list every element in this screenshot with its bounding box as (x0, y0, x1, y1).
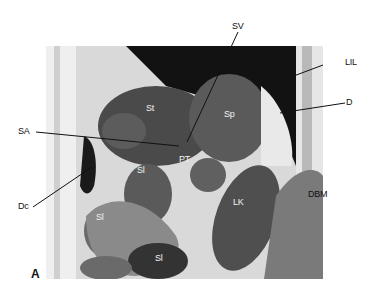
label-dbm: DBM (308, 190, 327, 199)
leader-line-sv (187, 32, 238, 142)
panel-letter: A (31, 267, 40, 281)
label-sl-left: Sl (96, 213, 104, 222)
label-sl-upper: Sl (137, 166, 145, 175)
label-st: St (146, 104, 154, 113)
label-d: D (346, 98, 352, 107)
label-sl-bottom: Sl (155, 254, 163, 263)
label-sp: Sp (224, 110, 235, 119)
label-sa: SA (18, 127, 30, 136)
label-sv: SV (232, 22, 244, 31)
label-dc: Dc (18, 202, 29, 211)
leader-line-dc (33, 167, 92, 207)
label-lil: LIL (345, 58, 357, 67)
label-lk: LK (233, 198, 244, 207)
leader-line-sa (36, 132, 179, 146)
leader-lines (0, 0, 378, 299)
mri-figure: SV LIL D SA Dc DBM St Sp PT Sl Sl Sl LK … (0, 0, 378, 299)
leader-line-d (280, 103, 345, 113)
leader-line-lil (283, 65, 323, 80)
label-pt: PT (179, 155, 190, 164)
